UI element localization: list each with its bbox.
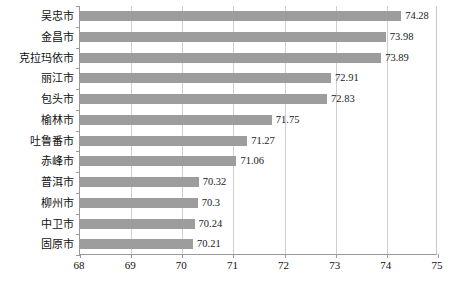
chart-row: 71.06 xyxy=(80,151,436,172)
bar-value-label: 73.89 xyxy=(385,50,409,65)
chart-row: 72.91 xyxy=(80,68,436,89)
bar-value-label: 73.98 xyxy=(390,29,414,44)
chart-row: 73.98 xyxy=(80,27,436,48)
bar-value-label: 71.27 xyxy=(251,133,275,148)
y-axis-tick xyxy=(76,255,80,256)
category-label: 中卫市 xyxy=(0,217,74,232)
category-label: 固原市 xyxy=(0,237,74,252)
chart-row: 70.32 xyxy=(80,172,436,193)
bar-value-label: 71.75 xyxy=(276,112,300,127)
horizontal-bar-chart: 74.2873.9873.8972.9172.8371.7571.2771.06… xyxy=(0,0,459,286)
category-label: 普洱市 xyxy=(0,175,74,190)
plot-area: 74.2873.9873.8972.9172.8371.7571.2771.06… xyxy=(79,6,437,255)
bar-value-label: 70.32 xyxy=(203,174,227,189)
chart-row: 70.21 xyxy=(80,234,436,255)
bar xyxy=(80,53,381,63)
chart-row: 70.24 xyxy=(80,214,436,235)
category-label: 丽江市 xyxy=(0,71,74,86)
chart-row: 71.75 xyxy=(80,110,436,131)
chart-row: 74.28 xyxy=(80,6,436,27)
bar xyxy=(80,219,195,229)
x-axis-tick-label: 68 xyxy=(64,258,94,272)
x-axis-tick-label: 75 xyxy=(422,258,452,272)
bar xyxy=(80,136,247,146)
category-label: 吐鲁番市 xyxy=(0,134,74,149)
x-axis-tick-label: 69 xyxy=(115,258,145,272)
bar xyxy=(80,198,198,208)
x-axis-tick-label: 70 xyxy=(166,258,196,272)
chart-row: 70.3 xyxy=(80,193,436,214)
category-label: 吴忠市 xyxy=(0,9,74,24)
chart-row: 73.89 xyxy=(80,48,436,69)
bar-value-label: 71.06 xyxy=(240,153,264,168)
bar xyxy=(80,156,236,166)
bar-value-label: 72.91 xyxy=(335,70,359,85)
bar xyxy=(80,73,331,83)
category-label: 柳州市 xyxy=(0,196,74,211)
x-axis-tick-label: 73 xyxy=(320,258,350,272)
bar xyxy=(80,177,199,187)
bar xyxy=(80,32,386,42)
bar-value-label: 70.21 xyxy=(197,236,221,251)
bar-value-label: 72.83 xyxy=(331,91,355,106)
bar xyxy=(80,11,401,21)
category-label: 包头市 xyxy=(0,92,74,107)
bar xyxy=(80,239,193,249)
bar-value-label: 70.24 xyxy=(199,216,223,231)
category-label: 克拉玛依市 xyxy=(0,51,74,66)
category-label: 赤峰市 xyxy=(0,154,74,169)
bar-value-label: 70.3 xyxy=(202,195,220,210)
category-label: 榆林市 xyxy=(0,113,74,128)
bar xyxy=(80,115,272,125)
category-label: 金昌市 xyxy=(0,30,74,45)
chart-row: 71.27 xyxy=(80,131,436,152)
bar-value-label: 74.28 xyxy=(405,8,429,23)
chart-row: 72.83 xyxy=(80,89,436,110)
x-axis-tick-label: 71 xyxy=(217,258,247,272)
x-axis-tick-label: 74 xyxy=(371,258,401,272)
bar xyxy=(80,94,327,104)
x-axis-tick-label: 72 xyxy=(269,258,299,272)
